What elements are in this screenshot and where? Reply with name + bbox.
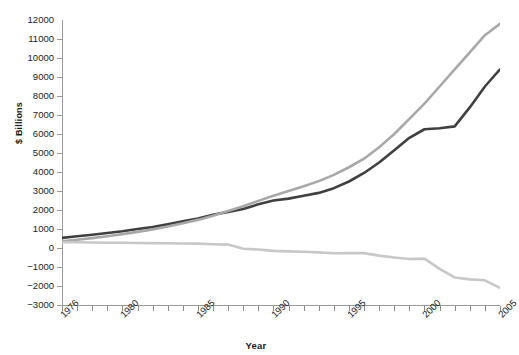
y-tick-label: 1000: [10, 224, 54, 234]
y-tick-label: 5000: [10, 148, 54, 158]
y-tick-label: 3000: [10, 186, 54, 196]
series-dark: [62, 69, 500, 238]
y-axis-tick-labels: 1200011000100009000800070006000500040003…: [10, 0, 54, 355]
x-tick-mark: [107, 306, 108, 311]
x-tick-mark: [319, 306, 320, 311]
x-tick-mark: [153, 306, 154, 311]
y-tick-label: 6000: [10, 129, 54, 139]
x-tick-mark: [455, 306, 456, 311]
x-tick-mark: [183, 306, 184, 311]
series-paths: [62, 20, 500, 305]
y-tick-label: 11000: [10, 34, 54, 44]
y-tick-label: −3000: [10, 300, 54, 310]
x-axis-label: Year: [0, 340, 512, 351]
y-tick-label: 12000: [10, 15, 54, 25]
y-tick-label: −1000: [10, 262, 54, 272]
x-tick-mark: [334, 306, 335, 311]
x-tick-mark: [92, 306, 93, 311]
y-tick-label: 4000: [10, 167, 54, 177]
plot-area: [62, 20, 500, 305]
y-tick-label: 10000: [10, 53, 54, 63]
y-tick-label: 0: [10, 243, 54, 253]
x-tick-mark: [243, 306, 244, 311]
x-tick-mark: [379, 306, 380, 311]
x-tick-mark: [304, 306, 305, 311]
y-tick-label: 9000: [10, 72, 54, 82]
y-tick-label: 7000: [10, 110, 54, 120]
x-tick-mark: [470, 306, 471, 311]
x-tick-mark: [228, 306, 229, 311]
y-tick-label: 2000: [10, 205, 54, 215]
y-tick-label: 8000: [10, 91, 54, 101]
x-tick-mark: [258, 306, 259, 311]
x-tick-mark: [409, 306, 410, 311]
series-medium-gray: [62, 24, 500, 242]
y-tick-label: −2000: [10, 281, 54, 291]
x-tick-mark: [485, 306, 486, 311]
x-tick-mark: [394, 306, 395, 311]
series-light-gray: [62, 242, 500, 288]
x-tick-mark: [168, 306, 169, 311]
